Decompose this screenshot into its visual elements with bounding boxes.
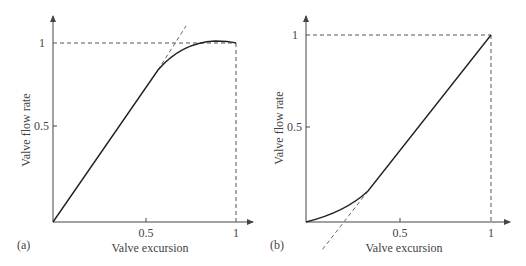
x-tick-label-1: 1 xyxy=(488,226,494,240)
x-tick-label-05: 0.5 xyxy=(393,226,408,240)
x-axis-label: Valve excursion xyxy=(112,241,189,255)
panel-tag: (b) xyxy=(270,238,284,252)
y-tick-label-1: 1 xyxy=(39,36,45,50)
tangent-line xyxy=(158,26,186,70)
flow-curve xyxy=(53,41,236,222)
y-tick-label-1: 1 xyxy=(292,28,298,42)
y-axis-label: Valve flow rate xyxy=(19,93,33,166)
panel-tag: (a) xyxy=(17,238,30,252)
flow-curve xyxy=(306,35,491,222)
x-axis-label: Valve excursion xyxy=(366,241,443,255)
panel-a: 1 0.5 0.5 1 Valve excursion (a) Valve fl… xyxy=(17,16,253,255)
panel-b: 1 0.5 0.5 1 Valve excursion (b) Valve fl… xyxy=(270,16,510,255)
tangent-line xyxy=(322,191,368,250)
figure: 1 0.5 0.5 1 Valve excursion (a) Valve fl… xyxy=(0,0,526,266)
y-tick-label-05: 0.5 xyxy=(287,120,302,134)
y-tick-label-05: 0.5 xyxy=(34,119,49,133)
x-tick-label-05: 0.5 xyxy=(139,226,154,240)
x-tick-label-1: 1 xyxy=(233,226,239,240)
y-axis-label: Valve flow rate xyxy=(272,91,286,164)
